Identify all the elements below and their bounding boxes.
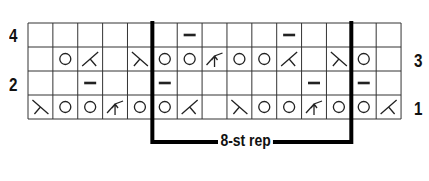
yarn-over-icon: [159, 102, 170, 113]
ssk-icon: [381, 100, 397, 114]
row-label-2: 2: [9, 74, 17, 96]
yarn-over-icon: [184, 54, 195, 65]
yarn-over-icon: [358, 54, 369, 65]
repeat-label: 8-st rep: [218, 131, 273, 151]
row-label-4: 4: [9, 25, 17, 47]
yarn-over-icon: [85, 102, 96, 113]
yarn-over-icon: [60, 54, 71, 65]
row-label-1: 1: [414, 98, 422, 120]
k2tog-icon: [331, 52, 347, 66]
k2tog-icon: [132, 52, 148, 66]
yarn-over-icon: [259, 54, 270, 65]
yarn-over-icon: [60, 102, 71, 113]
yarn-over-icon: [134, 102, 145, 113]
yarn-over-icon: [259, 102, 270, 113]
yarn-over-icon: [234, 54, 245, 65]
k2tog-icon: [231, 100, 247, 114]
yarn-over-icon: [358, 102, 369, 113]
yarn-over-icon: [284, 102, 295, 113]
ssk-icon: [281, 52, 297, 66]
chart-grid: [0, 0, 429, 181]
knitting-chart: [0, 0, 429, 181]
row-label-3: 3: [414, 50, 422, 72]
cdd-icon: [306, 101, 322, 115]
ssk-icon: [82, 52, 98, 66]
yarn-over-icon: [159, 54, 170, 65]
cdd-icon: [107, 101, 123, 115]
k2tog-icon: [32, 100, 48, 114]
cdd-icon: [207, 53, 223, 67]
ssk-icon: [182, 100, 198, 114]
yarn-over-icon: [333, 102, 344, 113]
